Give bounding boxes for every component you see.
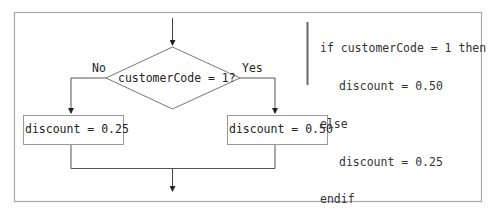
right-process-text: discount = 0.50: [229, 123, 333, 136]
no-branch-line: [71, 78, 106, 113]
pseudocode-line: discount = 0.50: [320, 80, 486, 93]
merge-line: [71, 145, 275, 169]
pseudocode-line: discount = 0.25: [320, 156, 486, 169]
pseudocode-line: if customerCode = 1 then: [320, 42, 486, 55]
yes-label: Yes: [242, 62, 263, 75]
pseudocode-line: endif: [320, 193, 486, 206]
left-process-text: discount = 0.25: [25, 123, 129, 136]
decision-text: customerCode = 1?: [118, 72, 236, 85]
no-label: No: [92, 62, 106, 75]
pseudocode-block: if customerCode = 1 then discount = 0.50…: [320, 17, 486, 214]
yes-branch-line: [240, 78, 275, 113]
pseudocode-line: else: [320, 118, 486, 131]
